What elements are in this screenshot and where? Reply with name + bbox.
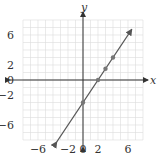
data-point — [81, 100, 85, 104]
x-tick-label: 2 — [95, 143, 102, 156]
y-tick-label: 0 — [7, 74, 14, 87]
data-point — [111, 55, 115, 59]
y-tick-label: −2 — [0, 89, 14, 102]
y-tick-label: 6 — [7, 29, 14, 42]
data-point — [96, 78, 100, 82]
x-tick-label: −6 — [30, 143, 46, 156]
x-tick-label: 0 — [80, 143, 87, 156]
x-axis-label: x — [150, 74, 157, 87]
x-tick-label: −2 — [60, 143, 76, 156]
tick-labels: −6−2026620−2−6 — [0, 29, 132, 156]
y-tick-label: 2 — [7, 59, 14, 72]
x-tick-label: 6 — [125, 143, 132, 156]
y-tick-label: −6 — [0, 119, 14, 132]
data-point — [103, 67, 107, 71]
y-axis-label: y — [80, 1, 88, 14]
coordinate-plane: xy −6−2026620−2−6 — [0, 0, 157, 156]
